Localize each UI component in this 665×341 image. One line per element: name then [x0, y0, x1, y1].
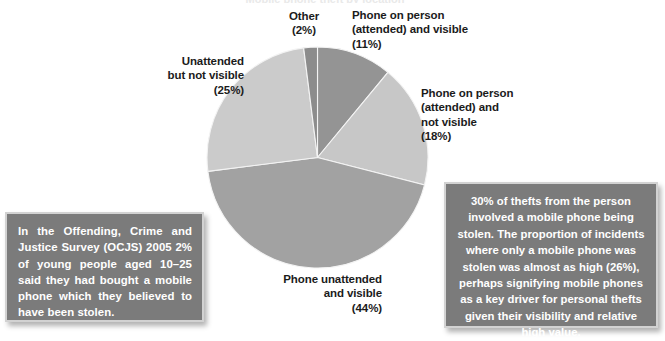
pie-label-other: Other (2%)	[268, 9, 340, 38]
pie-label-phone-on-person-attended-and-visible: Phone on person (attended) and visible (…	[352, 8, 502, 51]
callout-box-left: In the Offending, Crime and Justice Surv…	[5, 212, 204, 322]
callout-left-text: In the Offending, Crime and Justice Surv…	[18, 223, 192, 321]
pie-label-unattended-but-not-visible: Unattended but not visible (25%)	[128, 54, 244, 97]
pie-label-phone-on-person-attended-and-not-visible: Phone on person (attended) and not visib…	[421, 86, 561, 144]
callout-box-right: 30% of thefts from the person involved a…	[444, 182, 658, 328]
callout-right-text: 30% of thefts from the person involved a…	[455, 193, 647, 340]
clipped-figure-title: Mobile phone theft by location	[115, 0, 535, 3]
figure-canvas: Mobile phone theft by location Other (2%…	[0, 0, 665, 341]
pie-label-phone-unattended-and-visible: Phone unattended and visible (44%)	[232, 272, 382, 315]
